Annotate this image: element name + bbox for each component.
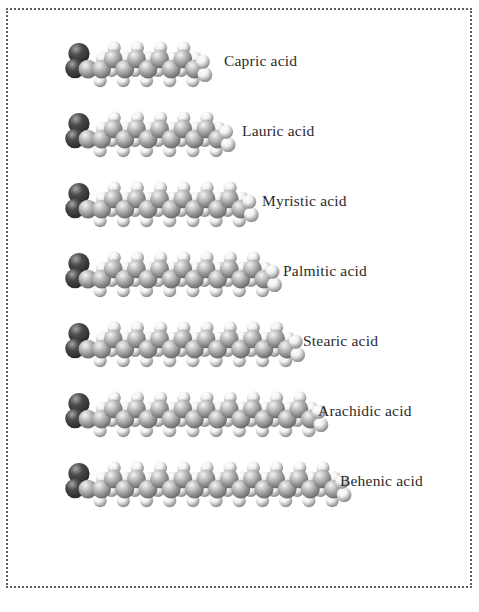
molecule-model: [64, 383, 336, 445]
molecule-label: Behenic acid: [340, 473, 423, 489]
molecule-model: [64, 313, 313, 375]
fatty-acid-figure: Capric acidLauric acidMyristic acidPalmi…: [0, 0, 479, 612]
molecule-label: Capric acid: [224, 53, 297, 69]
space-filling-model: [64, 453, 360, 515]
space-filling-model: [64, 33, 220, 95]
molecule-label: Stearic acid: [303, 333, 378, 349]
molecule-model: [64, 243, 290, 305]
molecule-model: [64, 453, 360, 515]
molecule-model: [64, 103, 244, 165]
molecule-model: [64, 33, 220, 95]
space-filling-model: [64, 243, 290, 305]
molecule-label: Lauric acid: [242, 123, 314, 139]
molecule-model: [64, 173, 267, 235]
space-filling-model: [64, 173, 267, 235]
molecule-label: Arachidic acid: [318, 403, 412, 419]
space-filling-model: [64, 103, 244, 165]
molecule-label: Myristic acid: [262, 193, 347, 209]
molecule-label: Palmitic acid: [283, 263, 367, 279]
space-filling-model: [64, 383, 336, 445]
space-filling-model: [64, 313, 313, 375]
